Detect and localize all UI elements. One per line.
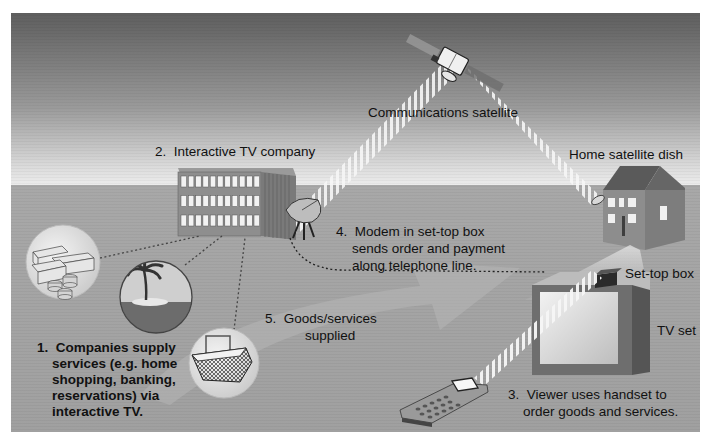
step-4-line-1-text: Modem in set-top box [355,224,485,239]
step-3-num: 3. [508,387,519,402]
step-3-line-1-text: Viewer uses handset to [527,387,667,402]
step-5-line-1-text: Goods/services [284,311,377,326]
building-windows [181,176,260,226]
step-4-num: 4. [336,224,347,239]
step-1-line-4: reservations) via [52,387,159,404]
label-tv-set: TV set [657,322,696,339]
step-4-line-3: along telephone line. [352,257,477,274]
step-4-line-2: sends order and payment [352,240,505,257]
step-5-line-2: supplied [305,327,355,344]
label-set-top-box: Set-top box [625,265,694,282]
label-communications-satellite: Communications satellite [368,104,518,121]
step-5-num: 5. [265,311,276,326]
label-home-satellite-dish: Home satellite dish [569,146,683,163]
step-3-line-2: order goods and services. [523,403,678,420]
shopping-basket-icon [189,328,259,398]
step-1-line-1: 1. Companies supply [37,339,176,356]
step-1-num: 1. [37,340,48,355]
label-interactive-tv-company: 2. Interactive TV company [155,143,315,160]
step-5-line-1: 5. Goods/services [265,310,377,327]
step-1-line-5: interactive TV. [52,403,143,420]
step-3-line-1: 3. Viewer uses handset to [508,386,667,403]
step-1-line-1-text: Companies supply [56,340,176,355]
step-4-line-1: 4. Modem in set-top box [336,223,485,240]
step-1-line-2: services (e.g. home [52,355,177,372]
money-stack-icon [26,225,100,300]
step-1-line-3: shopping, banking, [52,371,176,388]
